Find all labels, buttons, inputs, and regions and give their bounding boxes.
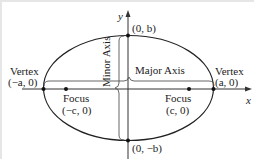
minor-axis-brace — [115, 36, 124, 140]
co-vertex-top-label: (0, b) — [132, 22, 156, 34]
y-axis-label: y — [118, 10, 123, 22]
co-vertex-top-point — [126, 34, 130, 38]
focus-left-point — [64, 87, 68, 91]
minor-axis-label: Minor Axis — [100, 37, 112, 87]
focus-left-coord: (−c, 0) — [62, 104, 91, 116]
vertex-left-point — [42, 87, 46, 91]
focus-left-name: Focus — [63, 92, 89, 104]
focus-right-name: Focus — [165, 92, 191, 104]
major-axis-brace — [44, 77, 214, 86]
focus-right-point — [187, 87, 191, 91]
x-axis-label: x — [246, 94, 251, 106]
focus-right-coord: (c, 0) — [166, 104, 189, 116]
vertex-left-coord: (−a, 0) — [8, 76, 37, 88]
y-axis-arrow-icon — [126, 10, 131, 17]
co-vertex-bottom-point — [126, 139, 130, 143]
major-axis-label: Major Axis — [135, 64, 185, 76]
vertex-right-coord: (a, 0) — [215, 76, 238, 88]
x-axis-arrow-icon — [245, 87, 252, 92]
ellipse-diagram: y x (0, b) (0, −b) Major Axis Minor Axis… — [0, 0, 254, 159]
co-vertex-bottom-label: (0, −b) — [132, 142, 162, 154]
